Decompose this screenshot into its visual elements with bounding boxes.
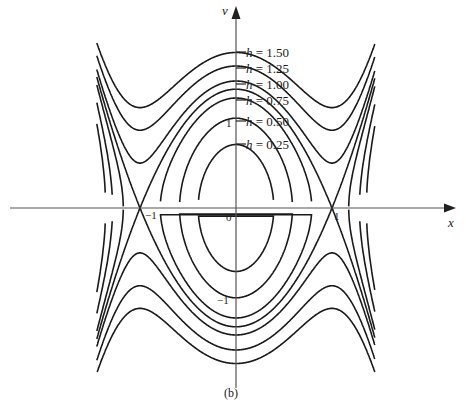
tick-label-x-1: 1 xyxy=(334,211,340,222)
x-axis-arrow-icon xyxy=(444,204,456,213)
tick-label-x-0: 0 xyxy=(226,212,232,223)
level-label-1.50: h = 1.50 xyxy=(246,46,289,59)
v-axis-arrow-icon xyxy=(232,6,241,19)
phase-portrait xyxy=(0,0,466,406)
level-label-1.25: h = 1.25 xyxy=(246,62,289,75)
level-label-0.75: h = 0.75 xyxy=(246,94,289,107)
tick-label-x-neg1: −1 xyxy=(145,210,157,221)
figure-caption: (b) xyxy=(224,386,238,401)
tick-label-v-1: 1 xyxy=(226,118,232,129)
level-label-1.00: h = 1.00 xyxy=(246,78,289,91)
level-label-0.50: h = 0.50 xyxy=(246,115,289,128)
level-label-0.25: h = 0.25 xyxy=(246,138,289,151)
x-axis-label: x xyxy=(448,216,454,229)
v-axis-label: v xyxy=(222,4,228,17)
tick-label-v-neg1: −1 xyxy=(217,295,229,306)
